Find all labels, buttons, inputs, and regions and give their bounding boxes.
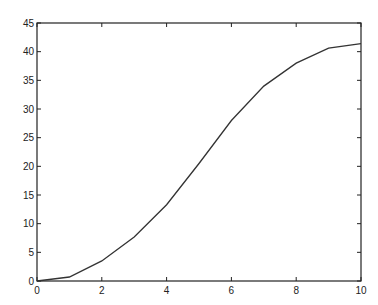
y-tick-label: 10 <box>23 218 35 229</box>
y-tick-label: 25 <box>23 132 35 143</box>
x-tick-label: 4 <box>164 285 170 296</box>
y-tick-label: 40 <box>23 46 35 57</box>
x-axis: 0246810 <box>34 23 367 296</box>
y-tick-label: 5 <box>28 247 34 258</box>
x-tick-label: 2 <box>99 285 105 296</box>
y-tick-label: 35 <box>23 75 35 86</box>
plot-frame <box>37 23 361 281</box>
y-tick-label: 0 <box>28 276 34 287</box>
x-tick-label: 6 <box>229 285 235 296</box>
line-chart: 0246810 051015202530354045 <box>0 0 378 305</box>
y-tick-label: 20 <box>23 161 35 172</box>
x-tick-label: 8 <box>293 285 299 296</box>
x-tick-label: 10 <box>355 285 367 296</box>
y-tick-label: 15 <box>23 190 35 201</box>
x-tick-label: 0 <box>34 285 40 296</box>
y-axis: 051015202530354045 <box>23 18 361 287</box>
y-tick-label: 30 <box>23 104 35 115</box>
y-tick-label: 45 <box>23 18 35 29</box>
data-line <box>37 44 361 281</box>
